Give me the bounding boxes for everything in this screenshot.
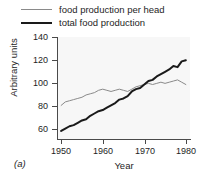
y-axis-line xyxy=(57,37,58,140)
panel-label: (a) xyxy=(14,158,26,169)
x-tick-mark xyxy=(145,139,146,144)
x-tick-label: 1970 xyxy=(128,147,162,156)
y-tick-mark xyxy=(52,129,57,130)
x-tick-label: 1980 xyxy=(169,147,203,156)
y-tick-label: 80 xyxy=(22,102,48,111)
plot-container: 140 120 100 80 60 1950 1960 1970 1980 Ar… xyxy=(0,0,209,177)
x-tick-label: 1960 xyxy=(86,147,120,156)
y-tick-label: 140 xyxy=(22,33,48,42)
y-tick-label: 60 xyxy=(22,125,48,134)
y-tick-label: 120 xyxy=(22,56,48,65)
y-tick-mark xyxy=(52,106,57,107)
x-tick-mark xyxy=(103,139,104,144)
y-axis-label: Arbitrary units xyxy=(8,28,19,108)
y-tick-label: 100 xyxy=(22,79,48,88)
x-tick-mark xyxy=(61,139,62,144)
y-tick-mark xyxy=(52,60,57,61)
y-tick-mark xyxy=(52,37,57,38)
x-tick-mark xyxy=(186,139,187,144)
x-axis-label: Year xyxy=(57,160,191,171)
plot-area-background xyxy=(57,37,190,139)
figure-panel-a: food production per head total food prod… xyxy=(0,0,209,177)
y-tick-mark xyxy=(52,83,57,84)
x-axis-line xyxy=(57,139,191,140)
x-tick-label: 1950 xyxy=(44,147,78,156)
